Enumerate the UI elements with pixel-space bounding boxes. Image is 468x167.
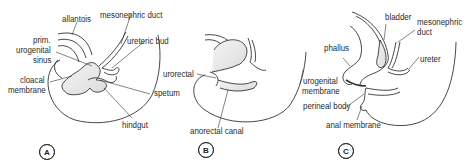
label-anal-membrane: anal membrane bbox=[326, 120, 381, 130]
panel-c-badge: C bbox=[338, 143, 354, 159]
label-hindgut: hindgut bbox=[122, 120, 148, 130]
label-mesonephric-duct: mesonephric duct bbox=[100, 10, 162, 20]
panel-a-badge: A bbox=[39, 144, 55, 160]
label-mesonephric-line2: duct bbox=[417, 27, 432, 37]
label-bladder: bladder bbox=[385, 12, 411, 22]
label-urogenital-line1: urogenital bbox=[303, 76, 338, 86]
panel-a-drawing bbox=[48, 14, 160, 123]
label-ureter: ureter bbox=[420, 54, 441, 64]
panel-b-badge: B bbox=[198, 142, 214, 158]
label-allantois: allantois bbox=[62, 14, 91, 24]
label-anorectal-canal: anorectal canal bbox=[190, 126, 244, 136]
label-urogenital-line2: membrane bbox=[302, 86, 340, 96]
panel-b-drawing bbox=[194, 35, 306, 128]
label-perineal-body: perineal body bbox=[303, 101, 350, 111]
label-urorectal: urorectal bbox=[163, 69, 194, 79]
label-prim-line3: sinus bbox=[33, 55, 51, 65]
embryo-cloaca-diagram bbox=[0, 0, 468, 167]
label-cloacal-line1: cloacal bbox=[20, 75, 45, 85]
label-ureteric-bud: ureteric bud bbox=[127, 36, 169, 46]
label-mesonephric-line1: mesonephric bbox=[417, 17, 462, 27]
label-prim-line1: prim. bbox=[33, 35, 51, 45]
label-spetum: spetum bbox=[154, 88, 180, 98]
label-phallus: phallus bbox=[324, 43, 349, 53]
label-prim-line2: urogenital bbox=[16, 45, 51, 55]
label-cloacal-line2: membrane bbox=[8, 85, 46, 95]
